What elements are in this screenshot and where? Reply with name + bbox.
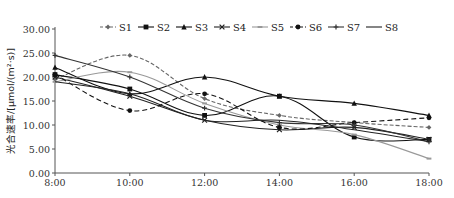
x-tick-label: 10:00 bbox=[116, 177, 143, 188]
legend-item-s7: S7 bbox=[328, 22, 360, 33]
series-s2 bbox=[53, 72, 432, 142]
series-line bbox=[55, 77, 429, 139]
legend-item-s6: S6 bbox=[290, 22, 322, 33]
plus-marker bbox=[202, 106, 207, 111]
chart-axes: 0.005.0010.0015.0020.0025.0030.008:0010:… bbox=[23, 24, 443, 189]
dash-marker bbox=[352, 134, 357, 136]
circle-marker bbox=[277, 125, 282, 130]
legend-label: S5 bbox=[271, 22, 284, 33]
series-s7 bbox=[53, 53, 432, 144]
legend-item-s1: S1 bbox=[100, 22, 132, 33]
x-tick-label: 16:00 bbox=[341, 177, 368, 188]
line-chart: S1S2S3S4S5S6S7S8 光合速率/[μmol/(m²·s)] 0.00… bbox=[0, 0, 454, 198]
legend-item-s2: S2 bbox=[138, 22, 170, 33]
diamond-marker bbox=[277, 113, 282, 118]
legend-item-s3: S3 bbox=[176, 22, 208, 33]
y-tick-label: 5.00 bbox=[29, 144, 50, 155]
x-tick-label: 18:00 bbox=[415, 177, 442, 188]
square-marker bbox=[144, 25, 149, 30]
dash-marker bbox=[127, 71, 132, 73]
y-axis-label: 光合速率/[μmol/(m²·s)] bbox=[5, 48, 16, 154]
square-marker bbox=[127, 87, 132, 92]
y-tick-label: 30.00 bbox=[23, 24, 50, 35]
legend-label: S3 bbox=[195, 22, 208, 33]
x-tick-label: 14:00 bbox=[266, 177, 293, 188]
series-line bbox=[55, 55, 429, 141]
legend-item-s5: S5 bbox=[252, 22, 284, 33]
diamond-marker bbox=[106, 25, 111, 30]
legend-label: S6 bbox=[309, 22, 322, 33]
circle-marker bbox=[427, 115, 432, 120]
legend-item-s8: S8 bbox=[366, 22, 398, 33]
legend-label: S2 bbox=[157, 22, 170, 33]
plus-marker bbox=[53, 53, 58, 58]
series-s1 bbox=[53, 53, 432, 130]
plus-marker bbox=[334, 25, 339, 30]
circle-marker bbox=[53, 72, 58, 77]
y-tick-label: 25.00 bbox=[23, 48, 50, 59]
legend-label: S1 bbox=[119, 22, 132, 33]
legend-label: S8 bbox=[385, 22, 398, 33]
plot-area bbox=[52, 53, 431, 160]
dash-marker bbox=[202, 102, 207, 104]
triangle-marker bbox=[52, 65, 57, 70]
diamond-marker bbox=[127, 53, 132, 58]
diamond-marker bbox=[427, 125, 432, 130]
square-marker bbox=[202, 113, 207, 118]
y-tick-label: 10.00 bbox=[23, 120, 50, 131]
diamond-marker bbox=[202, 96, 207, 101]
chart-legend: S1S2S3S4S5S6S7S8 bbox=[100, 22, 398, 33]
circle-marker bbox=[296, 25, 301, 30]
dash-marker bbox=[427, 158, 432, 160]
circle-marker bbox=[127, 108, 132, 113]
y-tick-label: 20.00 bbox=[23, 72, 50, 83]
legend-label: S7 bbox=[347, 22, 360, 33]
circle-marker bbox=[202, 91, 207, 96]
x-tick-label: 12:00 bbox=[191, 177, 218, 188]
plus-marker bbox=[127, 75, 132, 80]
legend-label: S4 bbox=[233, 22, 246, 33]
dash-marker bbox=[258, 26, 263, 28]
y-axis-title: 光合速率/[μmol/(m²·s)] bbox=[5, 48, 16, 154]
x-tick-label: 8:00 bbox=[44, 177, 65, 188]
y-tick-label: 15.00 bbox=[23, 96, 50, 107]
legend-item-s4: S4 bbox=[214, 22, 246, 33]
